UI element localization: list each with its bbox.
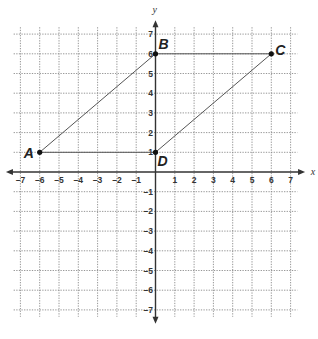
- point-label-d: D: [158, 153, 168, 169]
- x-tick-label: 6: [269, 175, 274, 185]
- x-tick-label: 2: [192, 175, 197, 185]
- vertices: ABCD: [23, 36, 287, 170]
- x-tick-label: 7: [288, 175, 293, 185]
- y-tick-label: –7: [144, 305, 154, 315]
- y-tick-label: 2: [148, 128, 153, 138]
- x-tick-label: –7: [16, 175, 26, 185]
- x-tick-label: –1: [131, 175, 141, 185]
- y-axis-down-arrow-icon: [153, 317, 159, 324]
- x-tick-label: –6: [35, 175, 45, 185]
- x-axis-right-arrow-icon: [298, 169, 305, 175]
- y-tick-label: –5: [144, 266, 154, 276]
- point-a: [37, 150, 42, 155]
- y-tick-label: 7: [148, 29, 153, 39]
- y-axis-label: y: [152, 4, 158, 15]
- x-tick-label: 5: [250, 175, 255, 185]
- point-c: [269, 51, 274, 56]
- y-tick-label: 4: [148, 88, 153, 98]
- x-axis-left-arrow-icon: [6, 169, 13, 175]
- y-tick-label: –3: [144, 226, 154, 236]
- x-tick-label: 3: [211, 175, 216, 185]
- y-tick-label: –4: [144, 246, 154, 256]
- x-tick-label: –4: [74, 175, 84, 185]
- y-tick-label: 5: [148, 69, 153, 79]
- coordinate-plane: xy –7–6–5–4–3–2–112345677654321–1–2–3–4–…: [0, 0, 318, 339]
- x-tick-label: –5: [54, 175, 64, 185]
- y-axis-up-arrow-icon: [153, 20, 159, 27]
- y-tick-label: 3: [148, 108, 153, 118]
- point-label-a: A: [23, 145, 34, 161]
- y-tick-label: –6: [144, 285, 154, 295]
- point-label-c: C: [275, 42, 286, 58]
- x-tick-label: –2: [112, 175, 122, 185]
- y-tick-label: –2: [144, 206, 154, 216]
- y-tick-label: –1: [144, 187, 154, 197]
- point-label-b: B: [159, 36, 169, 52]
- x-tick-label: 1: [172, 175, 177, 185]
- x-axis-label: x: [310, 166, 316, 177]
- point-b: [153, 51, 158, 56]
- x-tick-label: 4: [230, 175, 235, 185]
- x-tick-label: –3: [93, 175, 103, 185]
